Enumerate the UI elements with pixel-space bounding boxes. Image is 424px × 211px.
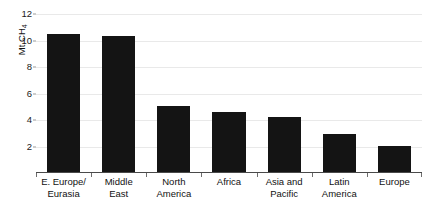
gridline bbox=[36, 94, 422, 95]
x-axis-category-label: Asia and Pacific bbox=[257, 176, 312, 199]
bar[interactable] bbox=[102, 36, 135, 172]
y-axis-tick-label: 4 bbox=[27, 115, 32, 125]
y-axis-tick-label: 2 bbox=[27, 142, 32, 152]
y-axis-tick-mark bbox=[33, 40, 36, 41]
bar[interactable] bbox=[47, 34, 80, 172]
x-axis-category-label: Africa bbox=[201, 176, 256, 188]
x-axis-line bbox=[36, 172, 422, 173]
y-axis-tick-label: 6 bbox=[27, 89, 32, 99]
x-axis-category-labels: E. Europe/ EurasiaMiddle EastNorth Ameri… bbox=[36, 176, 422, 210]
gridline bbox=[36, 67, 422, 68]
y-axis-tick-label: 10 bbox=[21, 36, 32, 46]
bar[interactable] bbox=[212, 112, 245, 172]
y-axis-tick-mark bbox=[33, 67, 36, 68]
plot-area: 24681012 bbox=[36, 14, 422, 173]
bar[interactable] bbox=[378, 146, 411, 172]
x-axis-category-label: North America bbox=[146, 176, 201, 199]
bar[interactable] bbox=[323, 134, 356, 172]
bar[interactable] bbox=[268, 117, 301, 172]
x-axis-category-label: Middle East bbox=[91, 176, 146, 199]
x-axis-category-label: E. Europe/ Eurasia bbox=[36, 176, 91, 199]
x-axis-category-label: Europe bbox=[367, 176, 422, 188]
y-axis-tick-label: 12 bbox=[21, 9, 32, 19]
y-axis-tick-label: 8 bbox=[27, 62, 32, 72]
gridline bbox=[36, 14, 422, 15]
y-axis-tick-mark bbox=[33, 146, 36, 147]
methane-emissions-bar-chart: Mt CH4 24681012 E. Europe/ EurasiaMiddle… bbox=[0, 0, 424, 211]
x-axis-category-label: Latin America bbox=[312, 176, 367, 199]
y-axis-tick-mark bbox=[33, 120, 36, 121]
gridline bbox=[36, 41, 422, 42]
y-axis-tick-mark bbox=[33, 93, 36, 94]
y-axis-tick-mark bbox=[33, 14, 36, 15]
y-axis-label-subscript: 4 bbox=[21, 24, 28, 28]
chart-title-clipped bbox=[118, 0, 308, 3]
bar[interactable] bbox=[157, 106, 190, 172]
